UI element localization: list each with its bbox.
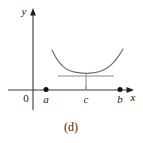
figure-container: y x 0 a c b (d) bbox=[0, 0, 143, 143]
figure-canvas: y x 0 a c b (d) bbox=[0, 0, 143, 143]
point-marker-a bbox=[44, 87, 49, 92]
point-label-a: a bbox=[43, 93, 49, 105]
point-label-b: b bbox=[117, 93, 123, 105]
y-axis-arrowhead bbox=[30, 8, 36, 16]
y-axis-label: y bbox=[21, 5, 27, 17]
function-curve bbox=[52, 49, 123, 73]
figure-caption: (d) bbox=[64, 120, 78, 134]
x-axis-label: x bbox=[130, 91, 136, 103]
point-marker-b bbox=[118, 87, 123, 92]
origin-label: 0 bbox=[23, 92, 29, 104]
point-label-c: c bbox=[84, 93, 89, 105]
